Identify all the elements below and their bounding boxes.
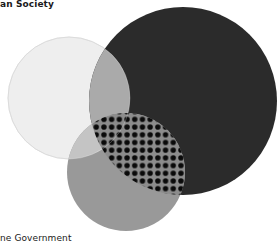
venn-diagram: an Society ne Government [0, 0, 279, 242]
label-bottom-left: ne Government [0, 233, 72, 242]
venn-svg [0, 0, 279, 242]
label-top-left: an Society [0, 0, 54, 9]
